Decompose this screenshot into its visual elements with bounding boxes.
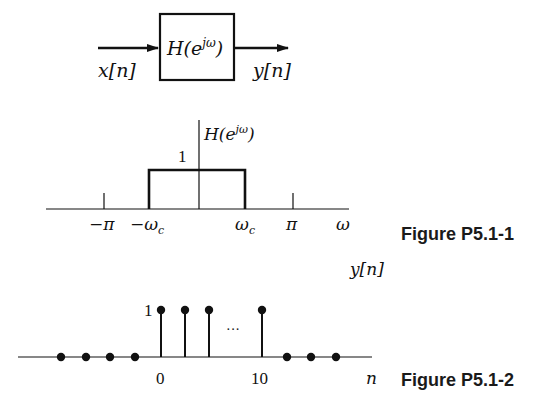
h-axis-label: H(ejω): [203, 123, 255, 144]
tick-label-neg-pi: −π: [89, 214, 115, 234]
sample-dot: [307, 353, 315, 361]
stem-plot: y[n] 1 ··· 0 10 n Figure P5.1-2: [18, 259, 514, 390]
figure2-caption: Figure P5.1-2: [401, 370, 514, 390]
sample-dot: [57, 353, 65, 361]
figure1-caption: Figure P5.1-1: [401, 224, 514, 244]
frequency-response-plot: H(ejω) 1 −π −ωc ωc π ω Figure P5.1-1: [46, 120, 514, 244]
tick-label-0: 0: [156, 369, 165, 388]
input-label: x[n]: [98, 59, 136, 81]
tick-label-wc: ωc: [235, 214, 255, 237]
sample-dot: [332, 353, 340, 361]
sample-dot: [131, 353, 139, 361]
stem-head: [258, 306, 266, 314]
sample-dot: [82, 353, 90, 361]
ellipsis: ···: [226, 322, 240, 337]
tick-label-pi: π: [285, 214, 298, 234]
output-label: y[n]: [252, 59, 291, 81]
yn-axis-label: y[n]: [349, 259, 384, 279]
sample-dot: [106, 353, 114, 361]
tick-label-neg-wc: −ωc: [130, 214, 164, 237]
figure-canvas: H(ejω) x[n] y[n] H(ejω) 1 −π −ωc ωc π ω …: [0, 0, 555, 417]
stem-level-label: 1: [144, 301, 153, 320]
stem-head: [181, 306, 189, 314]
tick-label-10: 10: [251, 369, 268, 388]
lowpass-response: [149, 170, 245, 209]
stem-head: [205, 306, 213, 314]
level-one-label: 1: [178, 147, 187, 166]
block-diagram: H(ejω) x[n] y[n]: [98, 14, 291, 81]
sample-dot: [283, 353, 291, 361]
x-axis-label-omega: ω: [336, 214, 350, 234]
stem-head: [157, 306, 165, 314]
system-label: H(ejω): [166, 36, 223, 59]
n-axis-label: n: [366, 368, 377, 388]
